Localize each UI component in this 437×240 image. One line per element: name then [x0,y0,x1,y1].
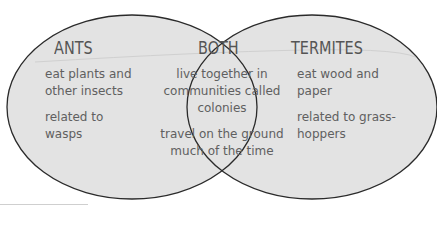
termites-item-1-line-1: eat wood and [297,66,379,83]
termites-item-2: related to grass- hoppers [297,109,396,143]
both-item-1: live together in communities called colo… [155,66,289,117]
ants-item-2: related to wasps [45,109,103,143]
termites-item-1-line-2: paper [297,83,379,100]
both-item-2: travel on the ground much of the time [150,126,294,160]
ants-item-2-line-1: related to [45,109,103,126]
both-item-2-line-1: travel on the ground [150,126,294,143]
termites-item-2-line-2: hoppers [297,126,396,143]
termites-item-1: eat wood and paper [297,66,379,100]
ants-item-1: eat plants and other insects [45,66,132,100]
ants-item-1-line-1: eat plants and [45,66,132,83]
both-title: BOTH [198,40,239,57]
termites-title: TERMITES [291,40,363,57]
ants-title: ANTS [54,40,93,57]
both-item-1-line-1: live together in [155,66,289,83]
both-item-1-line-3: colonies [155,100,289,117]
both-item-1-line-2: communities called [155,83,289,100]
both-item-2-line-2: much of the time [150,143,294,160]
ants-item-2-line-2: wasps [45,126,103,143]
termites-item-2-line-1: related to grass- [297,109,396,126]
ants-item-1-line-2: other insects [45,83,132,100]
baseline-divider [0,204,88,205]
